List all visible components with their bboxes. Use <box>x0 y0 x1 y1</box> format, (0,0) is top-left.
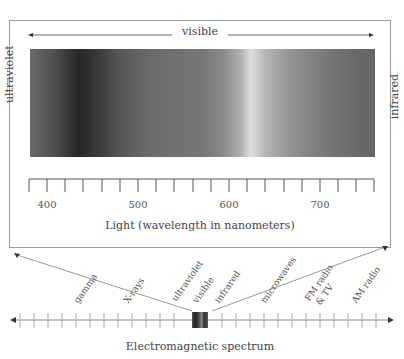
visible-range-label: visible <box>175 25 225 38</box>
infrared-side-label: infrared <box>388 74 401 119</box>
em-spectrum-title: Electromagnetic spectrum <box>100 340 300 353</box>
ultraviolet-side-label: ultraviolet <box>3 45 16 103</box>
tick-label-500: 500 <box>123 199 153 210</box>
tick-label-400: 400 <box>32 199 62 210</box>
wavelength-axis-title: Light (wavelength in nanometers) <box>100 219 300 232</box>
tick-label-700: 700 <box>305 199 335 210</box>
tick-label-600: 600 <box>214 199 244 210</box>
visible-spectrum-band <box>30 49 375 157</box>
